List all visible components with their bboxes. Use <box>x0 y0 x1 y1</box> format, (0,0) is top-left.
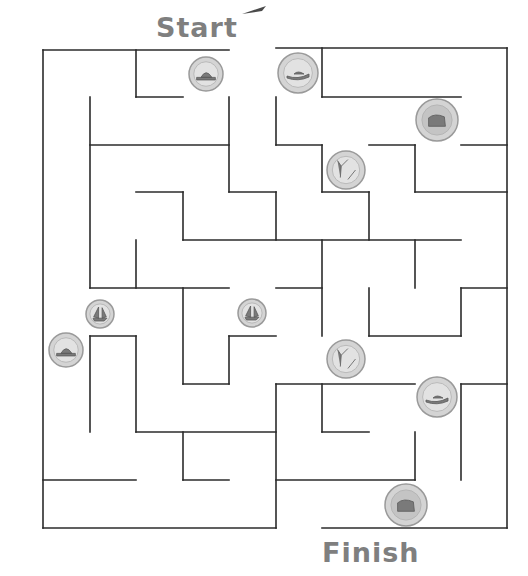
loonie-loon-2-coin-icon <box>417 377 457 417</box>
dime-bluenose-2-coin-icon <box>238 299 266 327</box>
toonie-bear-2-coin-icon <box>385 484 427 526</box>
toonie-bear-coin-icon <box>416 99 458 141</box>
nickel-beaver-2-coin-icon <box>49 333 83 367</box>
maze-board[interactable] <box>0 0 528 576</box>
nickel-beaver-coin-icon <box>189 57 223 91</box>
quarter-caribou-2-coin-icon <box>327 340 365 378</box>
quarter-caribou-coin-icon <box>327 151 365 189</box>
dime-bluenose-coin-icon <box>86 300 114 328</box>
loonie-loon-coin-icon <box>278 53 318 93</box>
